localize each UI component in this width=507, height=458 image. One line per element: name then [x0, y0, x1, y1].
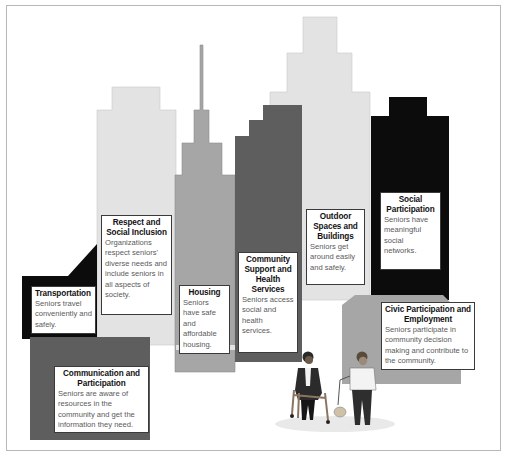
domain-description: Seniors travel conveniently and safely. [35, 299, 92, 330]
domain-title: Community Support and Health Services [242, 255, 294, 295]
domain-description: Seniors have meaningful social networks. [384, 215, 437, 257]
domain-description: Seniors are aware of resources in the co… [58, 389, 145, 431]
domain-box-community-support-health: Community Support and Health Services Se… [238, 252, 298, 353]
domain-title: Outdoor Spaces and Buildings [310, 212, 361, 242]
domain-title: Civic Participation and Employment [385, 305, 471, 325]
domain-box-outdoor-spaces: Outdoor Spaces and Buildings Seniors get… [306, 209, 365, 285]
domain-box-civic-participation: Civic Participation and Employment Senio… [381, 302, 475, 370]
domain-description: Seniors get around easily and safely. [310, 242, 361, 273]
domain-box-communication-participation: Communication and Participation Seniors … [54, 366, 149, 433]
domain-description: Seniors access social and health service… [242, 295, 294, 337]
domain-description: Seniors participate in community decisio… [385, 325, 471, 367]
domain-title: Communication and Participation [58, 369, 145, 389]
domain-box-social-participation: Social Participation Seniors have meanin… [380, 192, 441, 270]
domain-description: Seniors have safe and affordable housing… [183, 298, 226, 350]
domain-title: Respect and Social Inclusion [105, 218, 168, 238]
domain-description: Organizations respect seniors' diverse n… [105, 238, 168, 300]
domain-title: Transportation [35, 289, 92, 299]
senior-with-walker-figure [290, 352, 330, 425]
domain-title: Social Participation [384, 195, 437, 215]
domain-box-transportation: Transportation Seniors travel convenient… [31, 286, 96, 334]
domain-title: Housing [183, 288, 226, 298]
domain-box-housing: Housing Seniors have safe and affordable… [179, 285, 230, 354]
domain-box-respect-social-inclusion: Respect and Social Inclusion Organizatio… [101, 215, 172, 315]
